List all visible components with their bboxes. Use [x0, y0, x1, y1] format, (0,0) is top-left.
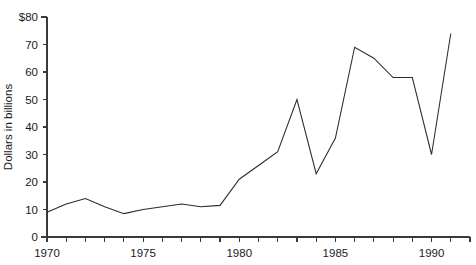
- y-tick-label: 60: [25, 66, 38, 78]
- x-tick-label: 1990: [419, 247, 445, 259]
- line-chart: 010203040506070$8019701975198019851990Do…: [0, 0, 476, 265]
- y-tick-label: 50: [25, 94, 38, 106]
- x-tick-label: 1980: [226, 247, 252, 259]
- y-tick-label: 20: [25, 176, 38, 188]
- y-tick-label: $80: [19, 11, 38, 23]
- data-line-series: [47, 34, 451, 214]
- y-axis: [41, 17, 47, 237]
- axis-labels-group: 010203040506070$8019701975198019851990Do…: [2, 11, 444, 259]
- x-tick-label: 1985: [323, 247, 349, 259]
- x-tick-label: 1970: [34, 247, 60, 259]
- chart-canvas: 010203040506070$8019701975198019851990Do…: [0, 0, 476, 265]
- y-tick-label: 30: [25, 149, 38, 161]
- x-axis: [47, 237, 470, 242]
- y-tick-label: 40: [25, 121, 38, 133]
- y-tick-label: 10: [25, 204, 38, 216]
- y-axis-title: Dollars in billions: [2, 84, 14, 171]
- x-tick-label: 1975: [130, 247, 156, 259]
- y-tick-label: 0: [32, 231, 38, 243]
- data-series-group: [47, 34, 451, 214]
- y-tick-label: 70: [25, 39, 38, 51]
